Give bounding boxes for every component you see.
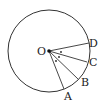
radius-od	[49, 43, 89, 51]
radius-oa	[49, 51, 64, 89]
angle-mark-3	[55, 60, 57, 62]
label-o: O	[37, 45, 46, 58]
label-b: B	[81, 76, 89, 89]
label-c: C	[89, 56, 97, 69]
angle-mark-1	[60, 51, 62, 53]
label-a: A	[63, 90, 73, 103]
label-d: D	[89, 37, 98, 50]
angle-mark-2	[58, 56, 60, 58]
center-point	[47, 49, 51, 53]
circle-diagram: O D C B A	[0, 0, 108, 107]
